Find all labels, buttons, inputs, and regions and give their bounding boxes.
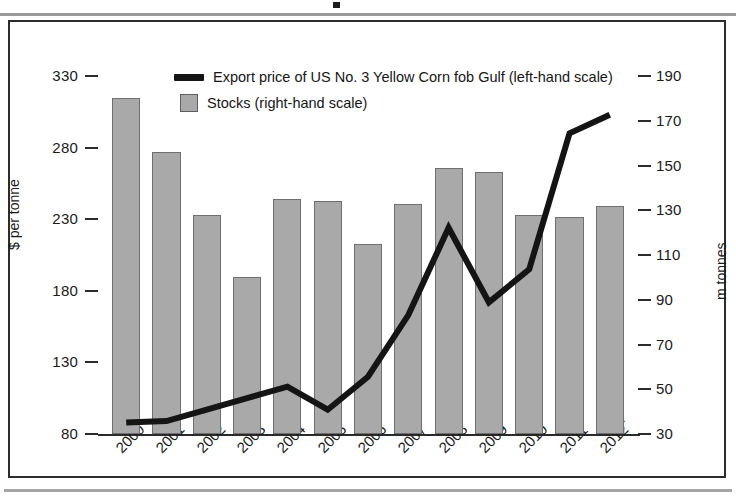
right-axis-tick-label: 70 <box>656 336 716 353</box>
chart-frame: 80130180230280330 3050709011013015017019… <box>8 20 726 478</box>
title-glyph-fragment <box>333 2 340 8</box>
top-rule-divider <box>0 13 736 16</box>
right-axis-tick-label: 30 <box>656 425 716 442</box>
right-axis-tick <box>638 299 651 301</box>
bar <box>112 98 140 434</box>
left-axis-tick-label: 80 <box>6 425 78 442</box>
left-axis-title: $ per tonne <box>6 179 22 250</box>
chart-legend: Export price of US No. 3 Yellow Corn fob… <box>174 64 604 116</box>
bar <box>515 215 543 434</box>
legend-label-stocks: Stocks (right-hand scale) <box>207 95 367 111</box>
right-axis-tick <box>638 254 651 256</box>
right-axis-tick <box>638 120 651 122</box>
left-axis-tick <box>85 218 98 220</box>
right-axis-tick-label: 150 <box>656 157 716 174</box>
right-axis-tick-label: 130 <box>656 201 716 218</box>
bottom-rule-divider <box>4 489 732 492</box>
bar <box>273 199 301 434</box>
right-axis-tick <box>638 344 651 346</box>
bar <box>314 201 342 434</box>
left-axis-tick <box>85 75 98 77</box>
bar <box>435 168 463 434</box>
left-axis-tick <box>85 433 98 435</box>
right-axis-tick-label: 50 <box>656 380 716 397</box>
left-axis-tick-label: 180 <box>6 282 78 299</box>
legend-item-price: Export price of US No. 3 Yellow Corn fob… <box>174 64 604 90</box>
left-axis-tick-label: 280 <box>6 139 78 156</box>
right-axis-tick-label: 110 <box>656 246 716 263</box>
right-axis-tick-label: 170 <box>656 112 716 129</box>
bar <box>354 244 382 434</box>
right-axis-tick <box>638 75 651 77</box>
right-axis-tick <box>638 388 651 390</box>
bar-swatch-icon <box>180 94 198 112</box>
legend-label-price: Export price of US No. 3 Yellow Corn fob… <box>213 69 613 85</box>
right-axis-title: m tonnes <box>713 242 729 300</box>
left-axis-tick <box>85 361 98 363</box>
left-axis-tick <box>85 147 98 149</box>
bar <box>193 215 221 434</box>
bar <box>233 277 261 434</box>
left-axis-tick-label: 130 <box>6 353 78 370</box>
right-axis-tick-label: 190 <box>656 67 716 84</box>
right-axis-tick <box>638 209 651 211</box>
left-axis-tick <box>85 290 98 292</box>
bar <box>394 204 422 434</box>
chart-figure: 80130180230280330 3050709011013015017019… <box>0 0 736 497</box>
right-axis-tick-label: 90 <box>656 291 716 308</box>
legend-item-stocks: Stocks (right-hand scale) <box>174 90 604 116</box>
right-axis-tick <box>638 165 651 167</box>
cropped-title-sliver <box>0 0 736 14</box>
line-swatch-icon <box>174 74 204 81</box>
bar <box>555 217 583 434</box>
left-axis-tick-label: 330 <box>6 67 78 84</box>
bar <box>596 206 624 434</box>
bar <box>152 152 180 434</box>
bar <box>475 172 503 434</box>
